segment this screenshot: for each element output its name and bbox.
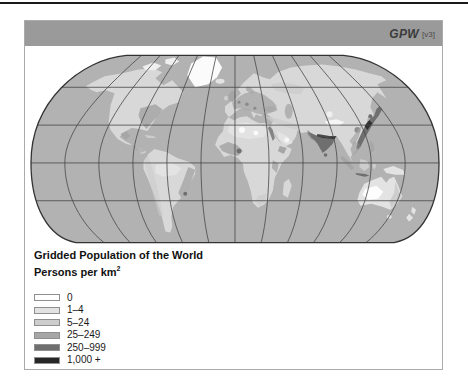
legend-item: 1–4: [34, 304, 203, 317]
legend-item: 25–249: [34, 329, 203, 342]
legend-subtitle-superscript: 2: [117, 265, 121, 272]
legend-item-label: 250–999: [67, 343, 106, 353]
legend-swatch: [34, 357, 60, 364]
legend-item: 1,000 +: [34, 354, 203, 367]
legend-swatch: [34, 307, 60, 314]
top-divider-rule: [0, 2, 468, 4]
gpw-logo-text: GPW: [389, 27, 419, 41]
map-figure-panel: GPW [v3]: [24, 20, 443, 370]
legend-item: 5–24: [34, 317, 203, 330]
legend-item-label: 1–4: [67, 305, 84, 315]
map-svg: [26, 46, 443, 251]
legend-item-label: 5–24: [67, 318, 89, 328]
legend-swatch: [34, 319, 60, 326]
legend-item: 0: [34, 292, 203, 305]
legend-swatch: [34, 344, 60, 351]
legend-title: Gridded Population of the World: [34, 249, 203, 262]
legend-rows: 01–45–2425–249250–9991,000 +: [34, 292, 203, 367]
legend-item-label: 0: [67, 293, 73, 303]
legend-subtitle: Persons per km2: [34, 262, 203, 279]
legend-swatch: [34, 332, 60, 339]
legend: Gridded Population of the World Persons …: [34, 249, 203, 367]
legend-subtitle-text: Persons per km: [34, 266, 117, 278]
gpw-version-text: [v3]: [422, 30, 435, 39]
legend-item-label: 1,000 +: [67, 355, 101, 365]
legend-swatch: [34, 294, 60, 301]
figure-titlebar: GPW [v3]: [25, 21, 442, 46]
caspian-sea: [285, 104, 293, 119]
world-population-map: [26, 46, 443, 251]
legend-item-label: 25–249: [67, 330, 100, 340]
legend-item: 250–999: [34, 342, 203, 355]
